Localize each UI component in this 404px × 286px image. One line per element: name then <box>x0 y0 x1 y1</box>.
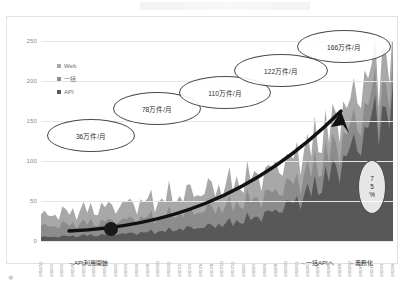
legend-swatch-web <box>57 64 61 68</box>
annotation-label-2: 78万件/月 <box>142 104 172 114</box>
event-note-bulk-api: →一括APIへ <box>300 258 334 267</box>
event-note-api-start: →API利用開始 <box>68 258 108 267</box>
annotation-label-3: 110万件/月 <box>208 88 241 98</box>
trend-arrow-head <box>331 111 349 133</box>
y-axis-tick-label: 200 <box>26 78 37 84</box>
chart-screenshot: 050100150200250 Web 一括 API 2014/122015/2… <box>0 0 404 286</box>
y-axis-tick-label: 50 <box>30 198 37 204</box>
y-axis-tick-label: 100 <box>26 158 37 164</box>
y-axis-tick-label: 150 <box>26 118 37 124</box>
legend-label-ikkatsu: 一括 <box>64 76 76 82</box>
top-strip <box>0 0 404 16</box>
annotation-label-1: 36万件/月 <box>76 131 106 141</box>
legend-swatch-ikkatsu <box>57 77 61 81</box>
annotation-ellipse-1: 36万件/月 <box>47 119 135 152</box>
event-note-mandatory: →義務化 <box>349 258 373 267</box>
annotation-label-4: 122万件/月 <box>264 66 298 76</box>
legend-item-api: API <box>57 89 76 95</box>
grid-line <box>41 241 393 242</box>
legend-item-web: Web <box>57 63 76 69</box>
annotation-ellipse-5: 166万件/月 <box>297 30 391 63</box>
y-axis-tick-label: 250 <box>26 38 37 44</box>
annotation-label-5: 166万件/月 <box>327 42 361 52</box>
percent-unit: % <box>369 191 375 199</box>
legend-item-ikkatsu: 一括 <box>57 76 76 82</box>
percent-digit-2: 5 <box>370 183 374 191</box>
figure-caption: ※ <box>8 272 404 284</box>
legend-label-web: Web <box>64 63 76 69</box>
percent-digit-1: 7 <box>370 175 374 183</box>
y-axis-tick-label: 0 <box>33 238 37 244</box>
legend-swatch-api <box>57 90 61 94</box>
api-start-marker-dot <box>104 222 118 236</box>
percent-callout-ellipse: 7 5 % <box>358 160 386 214</box>
ghost-title-bar <box>140 2 310 10</box>
chart-legend: Web 一括 API <box>57 63 76 102</box>
legend-label-api: API <box>64 89 74 95</box>
